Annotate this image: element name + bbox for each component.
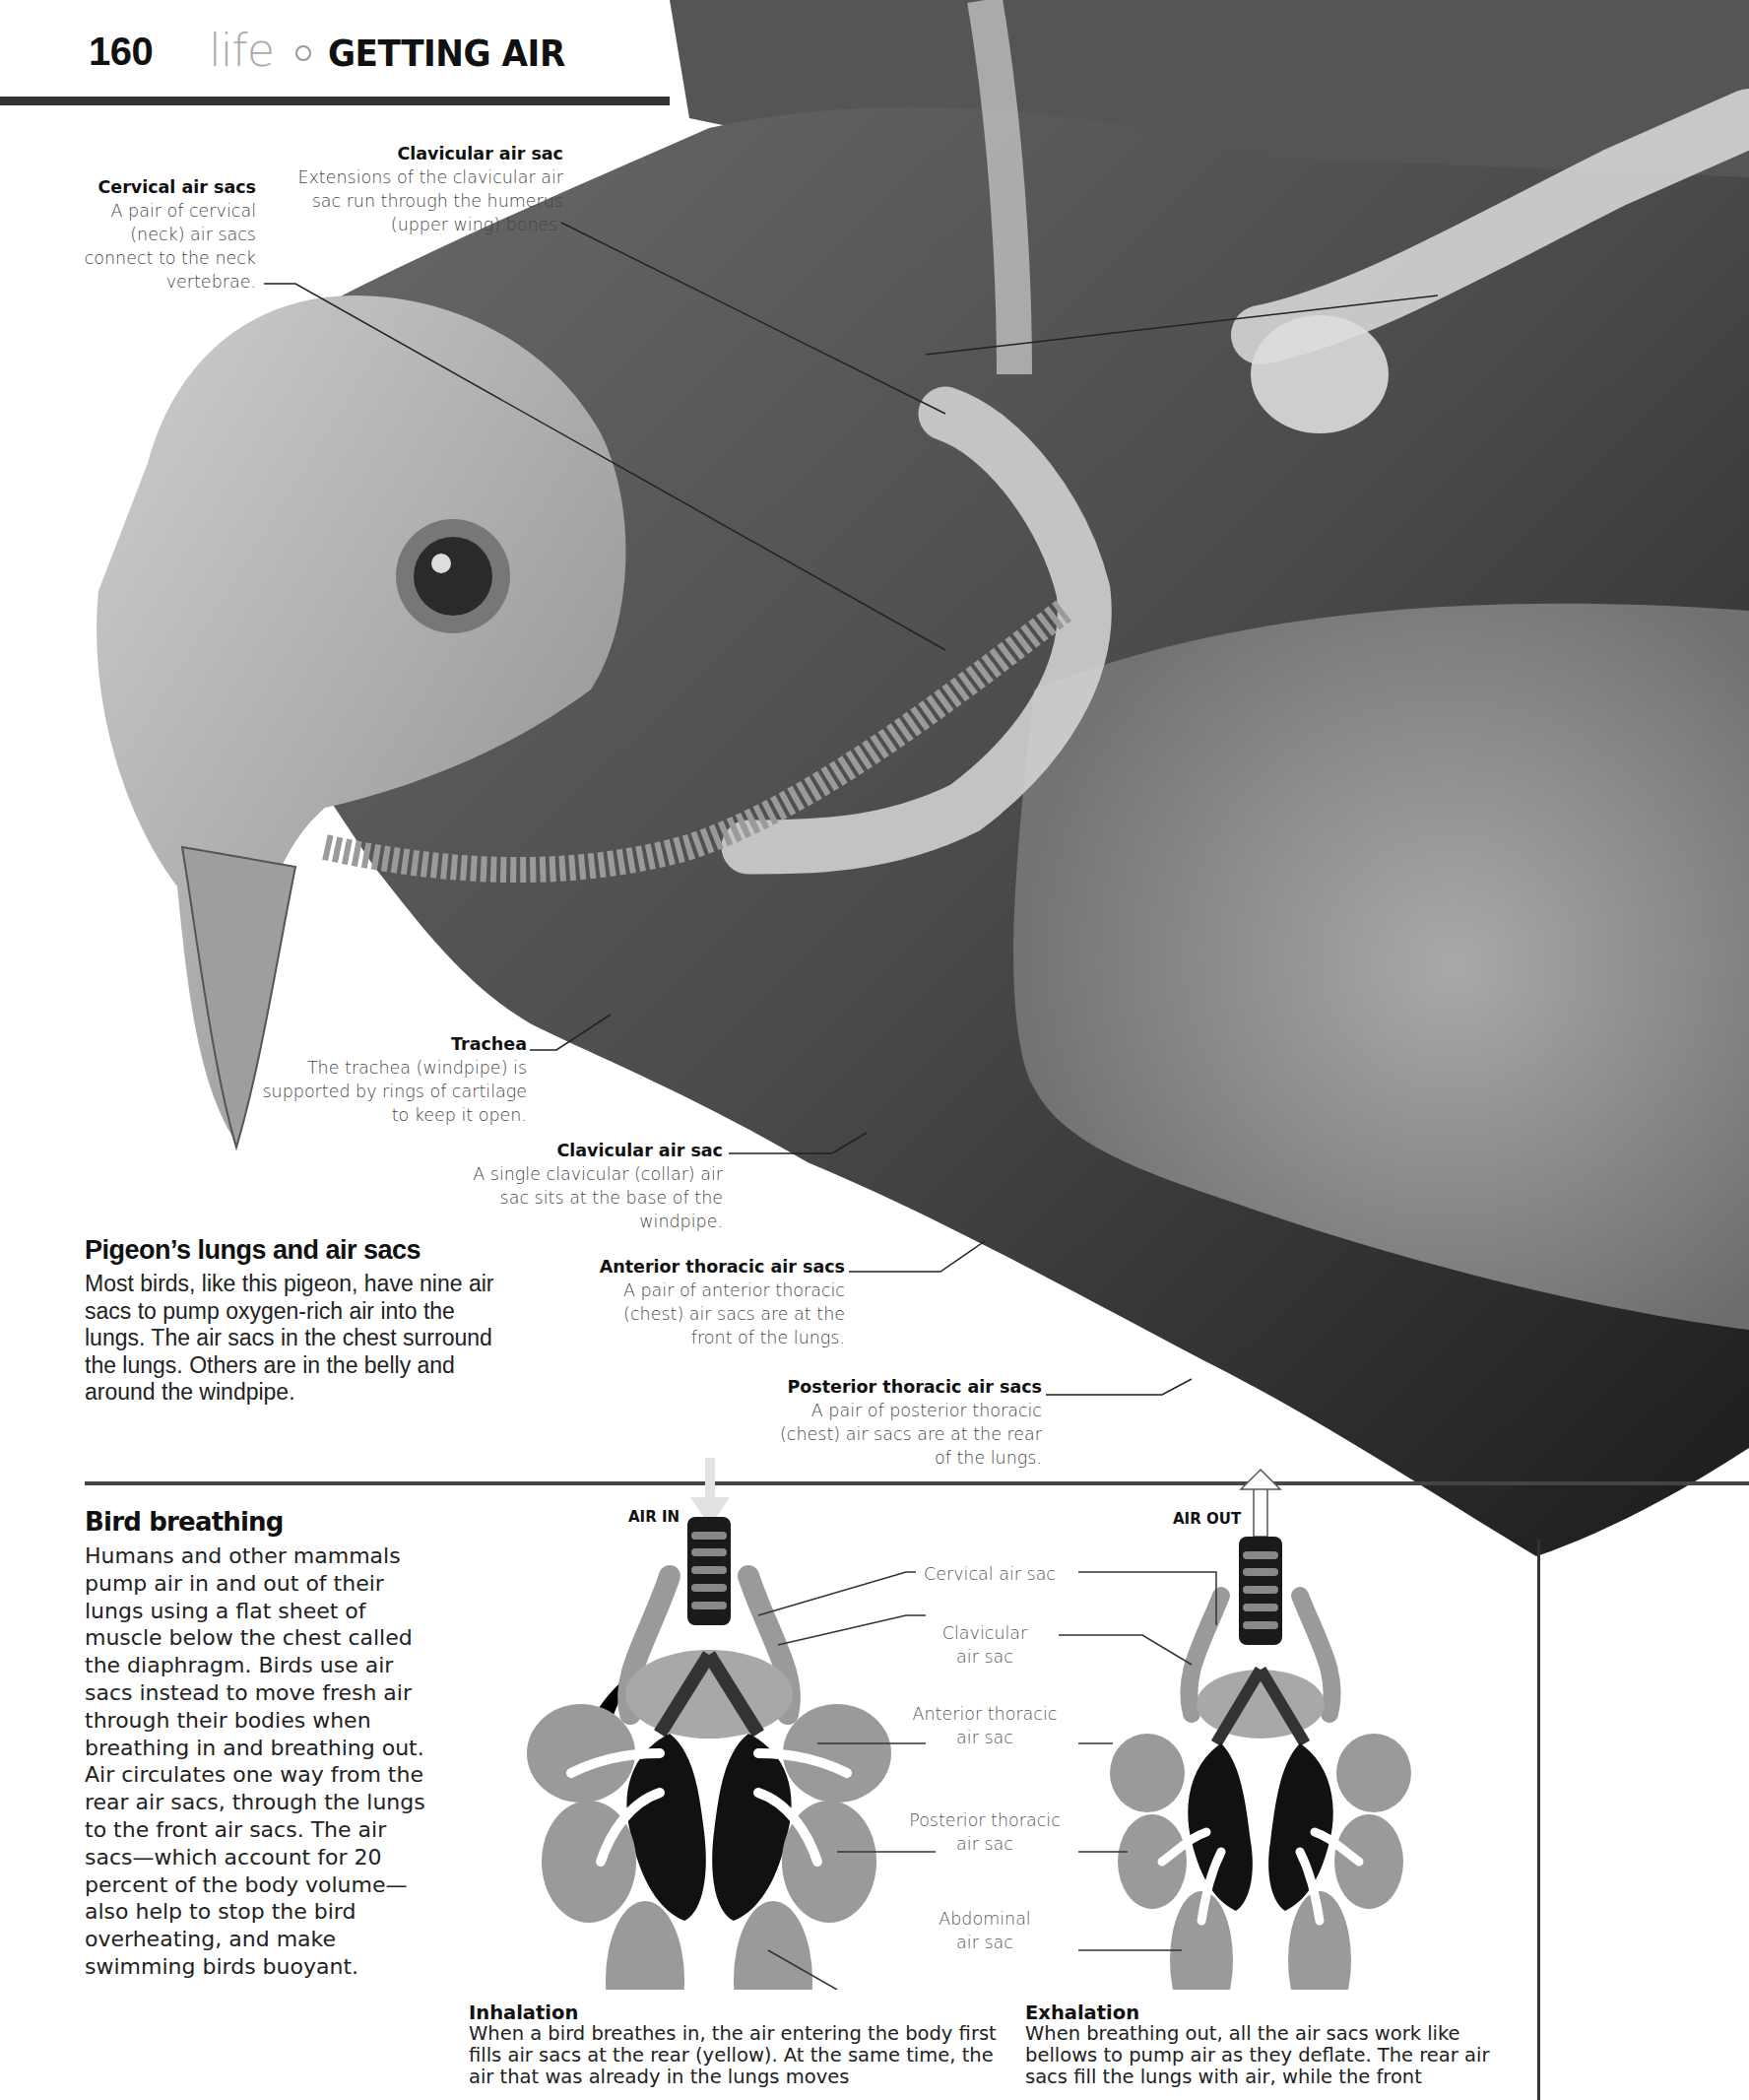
- air-out-arrow-icon: [1241, 1470, 1280, 1537]
- label-line-1: Anterior thoracic: [906, 1702, 1064, 1726]
- exhalation-diagram: [1110, 1537, 1411, 1990]
- inhalation-heading: Inhalation: [469, 2002, 578, 2024]
- label-line-2: air sac: [901, 1832, 1069, 1856]
- callout-text: A pair of anterior thoracic (chest) air …: [623, 1280, 845, 1347]
- callout-text: Extensions of the clavicular air sac run…: [297, 167, 563, 234]
- exhalation-body: When breathing out, all the air sacs wor…: [1025, 2023, 1537, 2088]
- inhalation-diagram: [527, 1517, 891, 1990]
- callout-anterior-thoracic-air-sacs: Anterior thoracic air sacs A pair of ant…: [581, 1255, 845, 1349]
- feature-body: Most birds, like this pigeon, have nine …: [85, 1271, 518, 1407]
- bird-breathing-body: Humans and other mammals pump air in and…: [85, 1542, 439, 1981]
- callout-title: Posterior thoracic air sacs: [778, 1375, 1042, 1399]
- callout-trachea: Trachea The trachea (windpipe) is suppor…: [256, 1032, 527, 1127]
- bird-breathing-heading: Bird breathing: [85, 1507, 284, 1537]
- callout-posterior-thoracic-air-sacs: Posterior thoracic air sacs A pair of po…: [778, 1375, 1042, 1470]
- inhalation-body: When a bird breathes in, the air enterin…: [469, 2023, 1001, 2088]
- callout-title: Trachea: [256, 1032, 527, 1056]
- diagram-label-posterior-thoracic: Posterior thoracic air sac: [901, 1808, 1069, 1856]
- diagram-label-anterior-thoracic: Anterior thoracic air sac: [906, 1702, 1064, 1749]
- label-line-1: Clavicular: [916, 1621, 1054, 1645]
- callout-clavicular-air-sac-upper: Clavicular air sac Extensions of the cla…: [266, 142, 563, 236]
- air-in-arrow-icon: [690, 1458, 730, 1527]
- header-rule: [0, 97, 670, 105]
- diagram-label-cervical: Cervical air sac: [906, 1562, 1073, 1586]
- exhalation-heading: Exhalation: [1025, 2002, 1139, 2024]
- diagram-label-clavicular: Clavicular air sac: [916, 1621, 1054, 1669]
- label-line-2: air sac: [906, 1726, 1064, 1749]
- page-title: GETTING AIR: [328, 32, 565, 75]
- feature-heading: Pigeon’s lungs and air sacs: [85, 1235, 421, 1266]
- callout-cervical-air-sacs: Cervical air sacs A pair of cervical (ne…: [59, 175, 256, 294]
- panel-border: [1537, 1540, 1540, 2100]
- callout-text: A single clavicular (collar) air sac sit…: [473, 1164, 723, 1231]
- page-number: 160: [89, 30, 153, 74]
- label-line-1: Posterior thoracic: [901, 1808, 1069, 1832]
- label-line-2: air sac: [916, 1645, 1054, 1669]
- callout-clavicular-air-sac-lower: Clavicular air sac A single clavicular (…: [453, 1139, 723, 1233]
- label-line-2: air sac: [921, 1931, 1049, 1954]
- circle-bullet-icon: [295, 45, 311, 61]
- callout-title: Clavicular air sac: [266, 142, 563, 165]
- callout-title: Clavicular air sac: [453, 1139, 723, 1162]
- label-line-1: Abdominal: [921, 1907, 1049, 1931]
- callout-text: The trachea (windpipe) is supported by r…: [262, 1058, 527, 1125]
- diagram-label-abdominal: Abdominal air sac: [921, 1907, 1049, 1954]
- callout-title: Anterior thoracic air sacs: [581, 1255, 845, 1279]
- callout-title: Cervical air sacs: [59, 175, 256, 199]
- callout-text: A pair of cervical (neck) air sacs conne…: [85, 201, 256, 292]
- section-label: life: [209, 24, 274, 77]
